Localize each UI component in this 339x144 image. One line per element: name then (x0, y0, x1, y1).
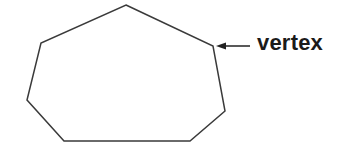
polygon-diagram (0, 0, 339, 144)
arrow-icon (216, 43, 250, 50)
heptagon-shape (27, 5, 225, 141)
diagram-canvas: vertex (0, 0, 339, 144)
vertex-label: vertex (257, 30, 323, 56)
